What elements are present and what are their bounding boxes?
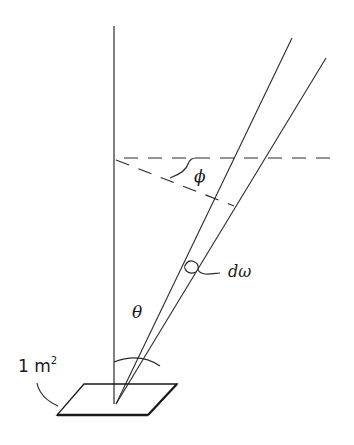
cone-edge-left: [116, 38, 292, 404]
d-omega-label: dω: [228, 262, 251, 281]
cone-edge-right: [116, 58, 326, 404]
azimuth-dashed-projection: [116, 160, 234, 206]
surface-patch-1m2: [57, 384, 177, 415]
area-label-leader: [37, 383, 58, 406]
phi-label: ϕ: [194, 166, 206, 186]
radiance-geometry-diagram: ϕ θ dω 1 m2: [0, 0, 354, 445]
surface-patch-right-edge: [148, 384, 177, 415]
d-omega-loop-marker: [185, 261, 220, 274]
phi-angle-arc: [170, 158, 196, 178]
theta-label: θ: [132, 302, 142, 322]
area-label-base: 1 m: [18, 356, 51, 376]
area-label-exponent: 2: [51, 355, 57, 366]
area-label: 1 m2: [18, 355, 57, 376]
theta-angle-arc: [114, 358, 160, 366]
